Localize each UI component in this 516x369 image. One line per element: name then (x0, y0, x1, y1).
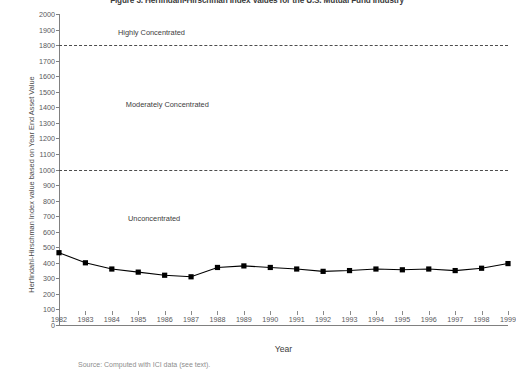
x-tick-mark (402, 311, 403, 315)
y-tick-mark (56, 325, 59, 326)
y-tick-mark (56, 76, 59, 77)
x-tick-label: 1983 (77, 315, 93, 324)
x-tick-label: 1992 (315, 315, 331, 324)
series-marker (400, 267, 405, 272)
figure-title: Figure 3. Herfindahl-Hirschman Index Val… (0, 0, 514, 5)
y-axis-title: Herfindahl-Hirschman Index value based o… (27, 35, 36, 335)
y-tick-mark (56, 263, 59, 264)
x-tick-label: 1996 (421, 315, 437, 324)
source-note: Source: Computed with ICI data (see text… (78, 361, 210, 368)
y-tick-label: 500 (43, 243, 55, 252)
y-tick-mark (56, 278, 59, 279)
plot-annotation: Unconcentrated (128, 213, 180, 222)
y-tick-mark (56, 185, 59, 186)
x-tick-mark (138, 311, 139, 315)
threshold-reference-line (59, 170, 508, 171)
series-marker (373, 266, 378, 271)
series-line (59, 253, 508, 277)
y-tick-label: 200 (43, 289, 55, 298)
y-tick-label: 1700 (39, 56, 55, 65)
x-tick-label: 1984 (104, 315, 120, 324)
x-tick-label: 1995 (394, 315, 410, 324)
y-tick-mark (56, 138, 59, 139)
x-tick-mark (508, 311, 509, 315)
x-tick-label: 1990 (262, 315, 278, 324)
series-marker (347, 268, 352, 273)
series-marker (215, 265, 220, 270)
x-tick-label: 1999 (500, 315, 516, 324)
x-tick-mark (482, 311, 483, 315)
y-tick-mark (56, 154, 59, 155)
x-tick-mark (297, 311, 298, 315)
y-tick-label: 1800 (39, 41, 55, 50)
y-tick-label: 1400 (39, 103, 55, 112)
y-tick-mark (56, 216, 59, 217)
y-tick-label: 300 (43, 274, 55, 283)
series-marker (294, 266, 299, 271)
y-tick-mark (56, 107, 59, 108)
x-tick-label: 1998 (474, 315, 490, 324)
y-tick-label: 2000 (39, 10, 55, 19)
series-marker (479, 266, 484, 271)
plot-annotation: Highly Concentrated (118, 27, 185, 36)
y-tick-label: 800 (43, 196, 55, 205)
y-tick-label: 900 (43, 181, 55, 190)
x-axis-title: Year (59, 344, 508, 354)
series-marker (136, 270, 141, 275)
x-tick-label: 1987 (183, 315, 199, 324)
y-tick-mark (56, 61, 59, 62)
x-tick-label: 1989 (236, 315, 252, 324)
y-tick-label: 1000 (39, 165, 55, 174)
plot-area: 0100200300400500600700800900100011001200… (59, 14, 508, 325)
x-tick-mark (59, 311, 60, 315)
y-tick-mark (56, 232, 59, 233)
series-marker (162, 273, 167, 278)
x-tick-mark (350, 311, 351, 315)
x-tick-mark (85, 311, 86, 315)
series-marker (56, 250, 61, 255)
series-marker (83, 260, 88, 265)
series-marker (109, 266, 114, 271)
series-marker (426, 266, 431, 271)
series-marker (505, 261, 510, 266)
x-tick-mark (270, 311, 271, 315)
x-tick-label: 1986 (157, 315, 173, 324)
y-tick-label: 400 (43, 258, 55, 267)
x-tick-mark (376, 311, 377, 315)
x-tick-mark (191, 311, 192, 315)
x-tick-label: 1982 (51, 315, 67, 324)
y-tick-mark (56, 14, 59, 15)
y-tick-label: 600 (43, 227, 55, 236)
y-tick-label: 100 (43, 305, 55, 314)
series-marker (188, 274, 193, 279)
y-tick-mark (56, 30, 59, 31)
series-marker (321, 269, 326, 274)
y-tick-mark (56, 294, 59, 295)
x-tick-mark (323, 311, 324, 315)
series-marker (268, 265, 273, 270)
plot-annotation: Moderately Concentrated (126, 100, 209, 109)
y-tick-label: 1300 (39, 118, 55, 127)
y-tick-label: 1500 (39, 87, 55, 96)
x-tick-mark (429, 311, 430, 315)
x-tick-label: 1988 (209, 315, 225, 324)
y-tick-label: 1900 (39, 25, 55, 34)
x-tick-label: 1993 (342, 315, 358, 324)
x-tick-mark (244, 311, 245, 315)
x-tick-label: 1991 (289, 315, 305, 324)
threshold-reference-line (59, 45, 508, 46)
y-tick-mark (56, 247, 59, 248)
x-tick-mark (455, 311, 456, 315)
y-tick-label: 1600 (39, 72, 55, 81)
y-tick-label: 700 (43, 212, 55, 221)
series-marker (453, 268, 458, 273)
y-tick-label: 1100 (40, 149, 55, 158)
y-tick-mark (56, 123, 59, 124)
y-tick-mark (56, 201, 59, 202)
y-tick-label: 1200 (39, 134, 55, 143)
x-axis-line (59, 325, 508, 326)
x-tick-label: 1994 (368, 315, 384, 324)
x-tick-mark (165, 311, 166, 315)
x-tick-label: 1997 (447, 315, 463, 324)
